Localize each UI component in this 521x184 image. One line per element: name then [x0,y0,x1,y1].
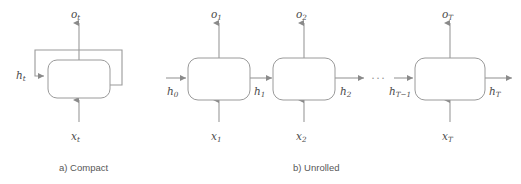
compact-panel-graphics [35,23,122,122]
unrolled-cell-box-1 [188,58,250,100]
compact-input-label: xt [71,131,80,142]
unrolled-panel-graphics [166,23,512,122]
unrolled-hidden-out-label-1: h1 [254,86,265,97]
unrolled-ellipsis: ··· [371,72,386,84]
unrolled-input-label-T: xT [442,131,453,142]
unrolled-output-label-2: o2 [296,9,307,20]
compact-cell-box [48,60,110,98]
unrolled-input-label-1: x1 [211,131,222,142]
unrolled-output-label-T: oT [442,9,453,20]
unrolled-hidden-out-label-T: hT [489,86,501,97]
unrolled-hidden-in-label-1: h0 [167,86,178,97]
unrolled-input-label-2: x2 [296,131,307,142]
compact-caption: a) Compact [59,163,108,173]
unrolled-output-label-1: o1 [211,9,222,20]
compact-output-label: ot [71,9,80,20]
unrolled-cell-box-2 [273,58,335,100]
rnn-figure: ot ht xt a) Compact o1 h0 x1 h1 o2 x2 h2… [0,0,521,184]
unrolled-cell-box-T [415,58,485,100]
unrolled-caption: b) Unrolled [293,163,339,173]
unrolled-hidden-out-label-2: h2 [340,86,351,97]
compact-hidden-label: ht [16,70,26,81]
unrolled-hidden-in-label-T: hT−1 [389,86,411,97]
